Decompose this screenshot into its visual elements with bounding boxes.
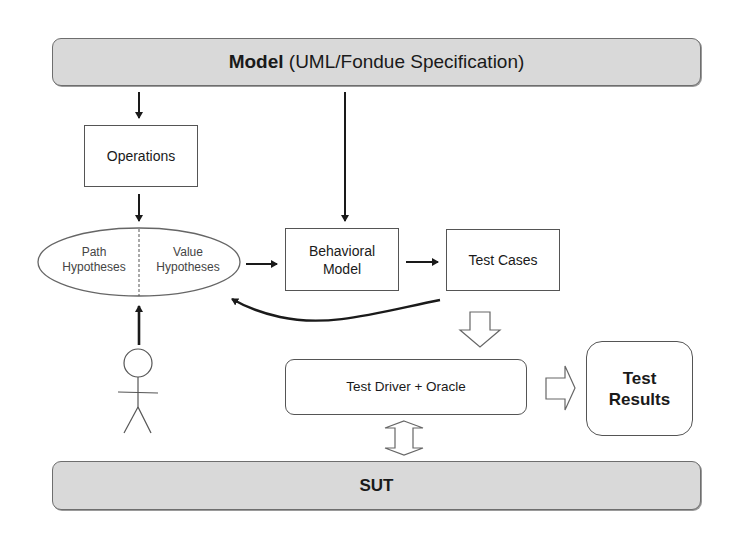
model-label-rest: (UML/Fondue Specification) — [284, 51, 525, 73]
curved-arrow-test-cases-to-hypotheses — [232, 299, 440, 321]
sut-bar: SUT — [52, 461, 701, 510]
operations-label: Operations — [107, 147, 175, 165]
actor-stick-figure-icon — [118, 349, 158, 433]
behavioral-model-box: Behavioral Model — [285, 228, 399, 291]
path-hypotheses-line2: Hypotheses — [52, 260, 136, 275]
hollow-arrow-driver-to-results — [546, 366, 575, 410]
value-hypotheses-label: Value Hypotheses — [142, 245, 234, 275]
hollow-double-arrow-driver-sut — [385, 421, 423, 455]
test-driver-label: Test Driver + Oracle — [346, 378, 466, 396]
model-label-bold: Model — [229, 51, 284, 73]
value-hypotheses-line1: Value — [142, 245, 234, 260]
test-cases-box: Test Cases — [446, 229, 560, 291]
value-hypotheses-line2: Hypotheses — [142, 260, 234, 275]
hollow-arrow-test-cases-to-driver — [460, 312, 500, 347]
path-hypotheses-line1: Path — [52, 245, 136, 260]
path-hypotheses-label: Path Hypotheses — [52, 245, 136, 275]
test-driver-oracle-box: Test Driver + Oracle — [285, 359, 527, 415]
test-results-line2: Results — [609, 389, 670, 410]
behavioral-model-line2: Model — [309, 260, 375, 278]
sut-label: SUT — [360, 476, 394, 496]
model-specification-bar: Model (UML/Fondue Specification) — [52, 38, 701, 86]
test-cases-label: Test Cases — [468, 251, 537, 269]
operations-box: Operations — [84, 125, 198, 187]
behavioral-model-line1: Behavioral — [309, 242, 375, 260]
test-results-box: Test Results — [586, 341, 693, 436]
test-results-line1: Test — [609, 368, 670, 389]
